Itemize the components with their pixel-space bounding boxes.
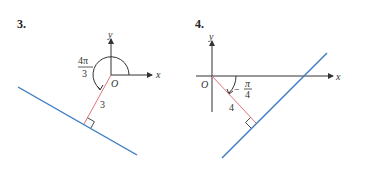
- origin-label: O: [201, 79, 208, 90]
- figure-4: 4. y x O − π 4 4: [195, 17, 341, 158]
- y-axis-label: y: [107, 29, 113, 40]
- line: [18, 87, 137, 155]
- angle-numerator: 4π: [78, 55, 88, 66]
- figure-3: 3. y x O 4π 3 3: [17, 17, 161, 155]
- angle-denominator: 3: [82, 68, 87, 79]
- y-axis-label: y: [208, 31, 214, 42]
- angle-numerator: π: [245, 78, 251, 89]
- distance-label: 4: [229, 102, 234, 113]
- angle-arrowhead-icon: [97, 85, 103, 90]
- perpendicular-segment: [84, 75, 111, 124]
- angle-sign: −: [234, 84, 240, 95]
- right-angle-marker: [88, 118, 95, 128]
- x-axis-label: x: [155, 69, 161, 80]
- angle-denominator: 4: [245, 89, 250, 100]
- right-angle-marker: [246, 118, 252, 129]
- figure-3-number: 3.: [17, 17, 26, 31]
- diagram-canvas: 3. y x O 4π 3 3 4. y x O − π 4: [0, 0, 373, 178]
- figure-4-number: 4.: [195, 17, 204, 31]
- line: [222, 53, 327, 158]
- x-axis-label: x: [335, 71, 341, 82]
- distance-label: 3: [100, 99, 105, 110]
- origin-label: O: [111, 78, 118, 89]
